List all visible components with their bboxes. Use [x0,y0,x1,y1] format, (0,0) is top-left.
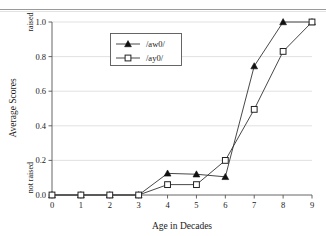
data-point-ay0-9 [309,19,315,25]
data-point-ay0-4 [165,182,171,188]
gridlines [52,22,312,160]
data-point-ay0-0 [49,192,55,198]
data-point-aw0-7 [251,63,258,69]
data-point-ay0legend-legend [125,55,131,61]
x-axis-title: Age in Decades [152,221,212,231]
x-tick-label-3: 3 [137,200,141,210]
data-point-ay0-5 [194,182,200,188]
figure-container: 0.00.20.40.60.81.0 0123456789 raisednot … [0,0,326,236]
x-tick-label-4: 4 [165,200,170,210]
data-point-ay0-7 [251,106,257,112]
x-tick-label-9: 9 [310,200,314,210]
axes [52,22,312,195]
x-tick-label-0: 0 [50,200,54,210]
line-chart: 0.00.20.40.60.81.0 0123456789 raisednot … [0,0,326,236]
y-annotation-not-raised: not raised [26,162,35,193]
x-tick-label-8: 8 [281,200,285,210]
chart-legend: /aw0//ay0/ [111,34,182,66]
y-tick-group: 0.00.20.40.60.81.0 [35,17,52,200]
data-point-ay0-8 [280,49,286,55]
y-tick-label-0: 0.0 [35,190,46,200]
series-layer [49,19,316,198]
legend-label-0: /aw0/ [146,39,166,49]
data-point-ay0-1 [78,192,84,198]
y-tick-label-3: 0.6 [35,86,46,96]
x-tick-group: 0123456789 [50,195,314,210]
data-point-ay0-3 [136,192,142,198]
y-tick-label-4: 0.8 [35,52,46,62]
data-point-ay0-2 [107,192,113,198]
x-tick-label-6: 6 [223,200,227,210]
y-tick-label-1: 0.2 [35,155,46,165]
x-tick-label-2: 2 [108,200,112,210]
y-axis-title: Average Scores [8,78,18,137]
x-tick-label-5: 5 [194,200,198,210]
y-tick-label-5: 1.0 [35,17,46,27]
y-annotation-group: raisednot raised [26,12,35,193]
series-line-ay0 [52,22,312,195]
y-annotation-raised: raised [26,12,35,31]
x-tick-label-1: 1 [79,200,83,210]
legend-label-1: /ay0/ [146,53,164,63]
y-tick-label-2: 0.4 [35,121,46,131]
data-point-ay0-6 [222,158,228,164]
series-line-aw0 [52,22,312,195]
x-tick-label-7: 7 [252,200,256,210]
